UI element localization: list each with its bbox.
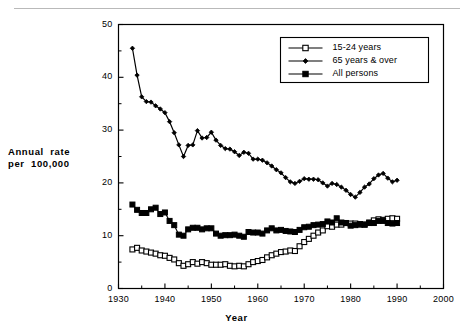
data-point (293, 181, 297, 185)
data-point (130, 46, 134, 50)
y-tick-label: 0 (77, 283, 113, 293)
data-point (395, 178, 399, 182)
y-tick-label: 40 (77, 71, 113, 81)
data-point (172, 223, 177, 228)
data-point (256, 157, 260, 161)
legend-entry-label: 15-24 years (333, 42, 382, 52)
data-point (241, 234, 246, 239)
data-point (307, 177, 311, 181)
data-point (209, 226, 214, 231)
data-point (153, 205, 158, 210)
data-series (130, 202, 400, 239)
data-point (172, 131, 176, 135)
x-tick-label: 1930 (97, 294, 141, 304)
x-tick-label: 1940 (143, 294, 187, 304)
data-point (162, 210, 167, 215)
x-tick-label: 1970 (282, 294, 326, 304)
data-point (186, 143, 190, 147)
y-tick-label: 30 (77, 124, 113, 134)
data-point (181, 233, 186, 238)
chart-figure: Annual rateper 100,000 Year 01020304050 … (0, 0, 473, 334)
plot-area (0, 0, 473, 334)
data-point (135, 73, 139, 77)
legend-entry-label: All persons (333, 68, 379, 78)
x-tick-label: 2000 (422, 294, 466, 304)
data-point (181, 154, 185, 158)
y-tick-label: 50 (77, 19, 113, 29)
data-point (130, 202, 135, 207)
x-tick-label: 1950 (189, 294, 233, 304)
y-tick-label: 20 (77, 177, 113, 187)
x-tick-label: 1990 (375, 294, 419, 304)
data-point (167, 119, 171, 123)
data-point (311, 177, 315, 181)
legend-marker (303, 45, 308, 50)
data-point (191, 143, 195, 147)
y-tick-label: 10 (77, 230, 113, 240)
legend-entry-label: 65 years & over (333, 55, 398, 65)
legend-marker (303, 71, 308, 76)
data-point (177, 143, 181, 147)
x-tick-label: 1960 (236, 294, 280, 304)
x-tick-label: 1980 (329, 294, 373, 304)
data-point (395, 221, 400, 226)
